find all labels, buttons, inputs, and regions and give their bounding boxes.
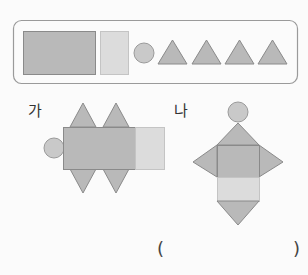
answer-paren-close: ) [293,238,300,259]
na-left-triangle [193,145,217,177]
square-part [101,32,129,75]
ga-bottom-triangle-2 [103,169,129,193]
figure-na [193,102,283,225]
circle-part [134,43,154,63]
na-circle [228,102,248,122]
ga-circle [44,138,64,158]
ga-top-triangle-1 [70,103,96,127]
na-light-rectangle [218,178,260,202]
ga-light-rectangle [136,128,165,170]
figure-label-na: 나 [174,99,188,120]
na-top-triangle [217,123,259,145]
parts-box [14,21,298,84]
na-bottom-triangle [217,201,259,225]
figure-label-ga: 가 [28,99,42,120]
na-right-triangle [259,145,283,177]
ga-main-rectangle [64,128,136,170]
large-rectangle-part [24,32,96,75]
ga-top-triangle-2 [103,103,129,127]
figure-ga [44,103,165,193]
na-square [218,146,260,178]
answer-paren-open: ( [157,238,164,259]
ga-bottom-triangle-1 [70,169,96,193]
figure-canvas [0,0,308,275]
